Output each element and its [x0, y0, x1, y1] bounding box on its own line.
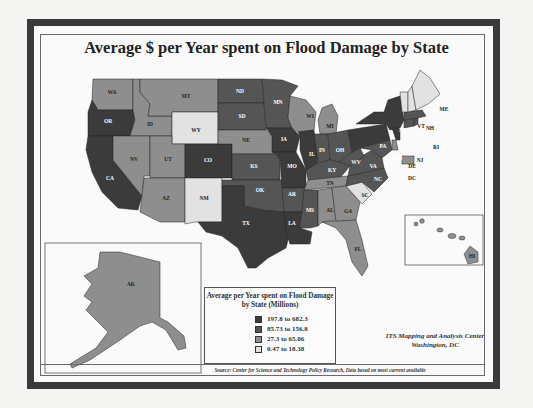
label-wv: WV [351, 159, 361, 165]
label-ga: GA [344, 208, 352, 214]
label-ia: IA [281, 136, 287, 142]
source-note: Source: Center for Science and Technolog… [200, 367, 440, 373]
credit: ITS Mapping and Analysis Center Washingt… [380, 332, 490, 350]
label-ks: KS [250, 163, 257, 169]
legend-swatch [255, 326, 262, 333]
legend-range: 27.3 to 65.06 [267, 335, 304, 343]
state-nm [185, 178, 222, 224]
label-ok: OK [256, 187, 265, 193]
label-mo: MO [287, 163, 297, 169]
label-co: CO [204, 157, 213, 163]
label-fl: FL [354, 246, 361, 252]
label-al: AL [326, 207, 334, 213]
label-ak: AK [127, 281, 136, 287]
credit-line1: ITS Mapping and Analysis Center [380, 332, 490, 341]
label-nd: ND [236, 88, 244, 94]
label-md: MD [393, 155, 402, 161]
label-oh: OH [336, 147, 345, 153]
legend-title: Average per Year spent on Flood Damage b… [205, 292, 335, 309]
label-tn: TN [326, 180, 334, 186]
legend-swatch [255, 336, 262, 343]
label-nh: NH [426, 125, 435, 131]
label-mt: MT [182, 93, 191, 99]
label-wy: WY [191, 127, 201, 133]
state-mi [318, 104, 338, 134]
label-nc: NC [374, 176, 382, 182]
state-me [412, 70, 440, 110]
legend-title-line2: by State (Millions) [205, 301, 335, 310]
label-sd: SD [238, 113, 245, 119]
legend-class-4: 0.47 to 18.38 [255, 345, 304, 354]
label-mn: MN [273, 99, 282, 105]
legend-class-2: 85.73 to 156.8 [255, 325, 308, 334]
label-ma: MA [416, 131, 425, 137]
label-va: VA [369, 163, 376, 169]
credit-line2: Washington, DC [380, 341, 490, 350]
label-hi: HI [469, 253, 475, 259]
label-or: OR [104, 118, 113, 124]
label-wa: WA [108, 89, 117, 95]
label-ms: MS [306, 207, 314, 213]
legend-class-3: 27.3 to 65.06 [255, 335, 304, 344]
label-wi: WI [306, 113, 314, 119]
label-ut: UT [164, 156, 172, 162]
label-in: IN [319, 147, 325, 153]
label-ca: CA [106, 175, 114, 181]
label-nm: NM [199, 195, 209, 201]
label-nv: NV [130, 156, 138, 162]
label-nj: NJ [417, 157, 424, 163]
legend-class-1: 197.8 to 682.3 [255, 315, 308, 324]
label-me: ME [440, 106, 449, 112]
label-de: DE [408, 163, 416, 169]
label-ky: KY [328, 167, 336, 173]
divider [40, 364, 485, 365]
label-sc: SC [361, 192, 368, 198]
state-de [392, 140, 398, 150]
legend-swatch [255, 346, 262, 353]
label-ne: NE [242, 137, 250, 143]
state-ak [70, 252, 186, 368]
label-la: LA [288, 220, 296, 226]
label-dc: DC [408, 175, 416, 181]
label-pa: PA [380, 143, 387, 149]
label-vt: VT [417, 123, 425, 129]
label-mi: MI [326, 123, 333, 129]
state-mt [140, 79, 218, 116]
label-az: AZ [162, 195, 170, 201]
legend-range: 197.8 to 682.3 [267, 315, 308, 323]
label-ar: AR [288, 191, 297, 197]
label-ny: NY [399, 127, 407, 133]
label-tx: TX [242, 220, 250, 226]
label-id: ID [147, 121, 153, 127]
legend-title-line1: Average per Year spent on Flood Damage [205, 292, 335, 301]
label-ri: RI [433, 144, 439, 150]
legend-swatch [255, 316, 262, 323]
legend: Average per Year spent on Flood Damage b… [204, 287, 336, 364]
legend-range: 85.73 to 156.8 [267, 325, 308, 333]
legend-range: 0.47 to 18.38 [267, 345, 304, 353]
label-il: IL [309, 151, 315, 157]
